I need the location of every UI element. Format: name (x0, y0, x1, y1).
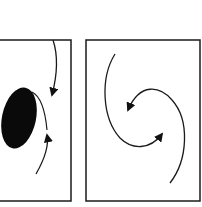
incoming-flow-arrow (52, 40, 57, 95)
left-panel (0, 40, 71, 201)
spiral-arm-right (128, 89, 185, 183)
diagram-figure (0, 0, 202, 207)
right-panel (86, 40, 200, 201)
outgoing-flow-arrow (36, 135, 47, 174)
